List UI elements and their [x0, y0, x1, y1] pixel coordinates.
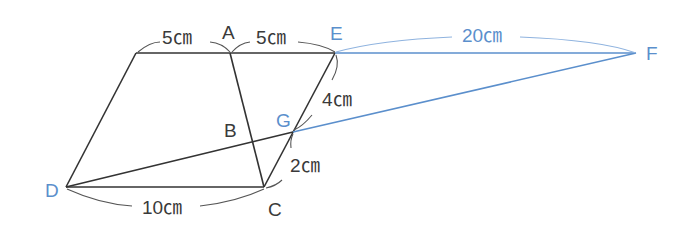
point-label-F: F: [646, 43, 658, 64]
point-label-D: D: [45, 180, 59, 201]
geometry-figure: A B C D E F G 5㎝ 5㎝ 20㎝ 4㎝ 2㎝ 10㎝: [0, 0, 694, 232]
point-label-B: B: [224, 120, 237, 141]
measure-EF: 20㎝: [462, 25, 502, 46]
measure-DC: 10㎝: [142, 197, 182, 218]
arc-GC: [266, 134, 293, 188]
measure-GC: 2㎝: [290, 155, 320, 176]
point-label-G: G: [276, 110, 291, 131]
point-label-C: C: [268, 199, 282, 220]
segment-DG: [66, 132, 293, 187]
measure-EG: 4㎝: [322, 89, 352, 110]
measure-top-left: 5㎝: [162, 27, 192, 48]
segment-left-side: [66, 53, 136, 187]
point-label-E: E: [330, 23, 343, 44]
measure-top-right: 5㎝: [256, 27, 286, 48]
point-label-A: A: [222, 22, 235, 43]
